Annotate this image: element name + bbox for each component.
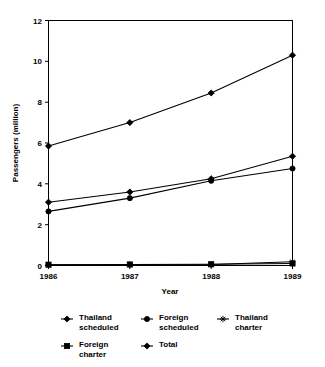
- legend-marker: [64, 343, 69, 348]
- x-tick-label-1988: 1988: [202, 272, 220, 281]
- legend-label-line2: charter: [235, 323, 262, 332]
- data-point: [127, 196, 132, 201]
- legend-label-line2: scheduled: [159, 323, 199, 332]
- x-tick-label-1989: 1989: [284, 272, 302, 281]
- legend-label-line1: Foreign: [159, 313, 188, 322]
- data-point: [46, 262, 51, 267]
- y-tick-label-10: 10: [33, 57, 42, 66]
- legend-marker: [144, 316, 149, 321]
- y-tick-label-8: 8: [38, 98, 43, 107]
- data-point: [209, 262, 214, 267]
- legend-label-line1: Total: [159, 340, 178, 349]
- legend-label-line1: Foreign: [79, 340, 108, 349]
- y-axis-title: Passengers (million): [11, 104, 20, 183]
- x-tick-label-1986: 1986: [40, 272, 58, 281]
- data-point: [290, 166, 295, 171]
- y-tick-label-12: 12: [33, 17, 42, 26]
- y-tick-label-0: 0: [38, 262, 43, 271]
- legend-label-line2: scheduled: [79, 323, 119, 332]
- data-point: [290, 261, 295, 266]
- passenger-line-chart: 12 10 8 6 4 2 0 Passengers (million) 198…: [0, 0, 325, 367]
- data-point: [127, 262, 132, 267]
- data-point: [209, 178, 214, 183]
- chart-container: 12 10 8 6 4 2 0 Passengers (million) 198…: [0, 0, 325, 367]
- x-axis-title: Year: [162, 287, 179, 296]
- legend-label-line1: Thailand: [79, 313, 112, 322]
- y-tick-label-6: 6: [38, 139, 43, 148]
- y-tick-label-4: 4: [38, 180, 43, 189]
- data-point: [46, 209, 51, 214]
- legend-label-line1: Thailand: [235, 313, 268, 322]
- y-tick-label-2: 2: [38, 221, 43, 230]
- legend-label-line2: charter: [79, 350, 106, 359]
- x-tick-label-1987: 1987: [121, 272, 139, 281]
